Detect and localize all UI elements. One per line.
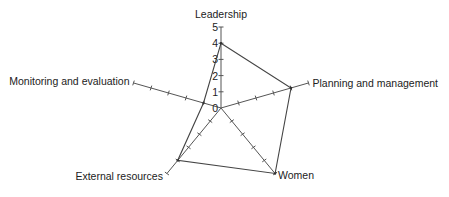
data-point — [290, 87, 292, 89]
data-point — [274, 172, 276, 174]
series-group — [177, 42, 293, 175]
axes-group — [134, 27, 309, 174]
axis-planning-and-management — [221, 83, 308, 108]
axis-external-resources — [167, 108, 221, 174]
data-point — [202, 102, 204, 104]
tick-labels-group: 012345 — [212, 21, 218, 114]
category-label: Leadership — [195, 8, 247, 20]
r-tick-label: 4 — [212, 37, 218, 49]
axis-women — [221, 108, 275, 174]
category-label: Women — [278, 169, 314, 181]
category-label: External resources — [75, 170, 163, 182]
data-point — [177, 159, 179, 161]
category-label: Monitoring and evaluation — [9, 75, 129, 87]
r-tick-label: 1 — [212, 86, 218, 98]
category-label: Planning and management — [312, 77, 438, 89]
r-tick-label: 5 — [212, 21, 218, 33]
data-point — [220, 42, 222, 44]
category-labels-group: LeadershipPlanning and managementWomenEx… — [9, 8, 438, 182]
series-polygon — [178, 43, 291, 173]
radar-chart: 012345 LeadershipPlanning and management… — [0, 0, 449, 197]
r-tick-label: 0 — [212, 102, 218, 114]
